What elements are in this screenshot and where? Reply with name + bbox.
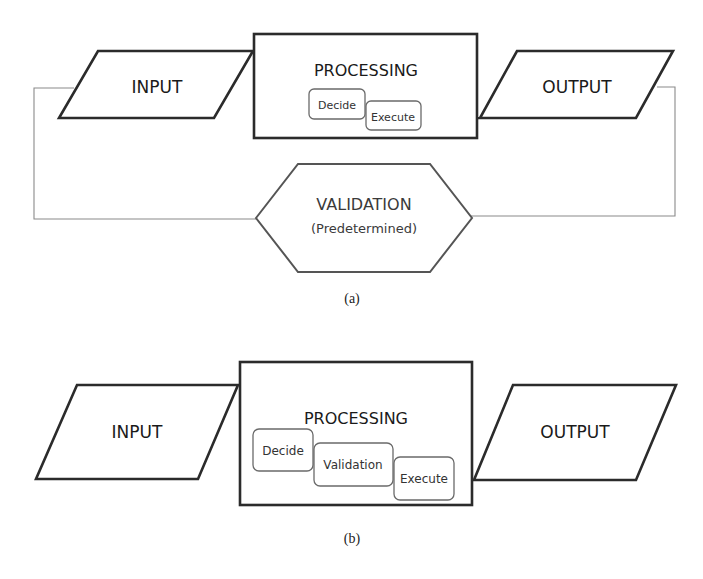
output-label-a: OUTPUT — [542, 77, 612, 97]
caption-a: (a) — [344, 291, 360, 307]
validation-label-b: Validation — [323, 458, 382, 472]
figure: INPUT PROCESSING Decide Execute OUTPUT V… — [0, 0, 703, 579]
validation-sublabel: (Predetermined) — [311, 221, 417, 236]
decide-label-b: Decide — [262, 444, 304, 458]
validation-label: VALIDATION — [316, 195, 411, 214]
diagram-b: INPUT PROCESSING Decide Validation Execu… — [36, 362, 676, 547]
input-label-a: INPUT — [132, 77, 183, 97]
decide-label-a: Decide — [318, 99, 356, 112]
execute-label-a: Execute — [371, 111, 415, 124]
validation-hexagon — [256, 164, 472, 272]
input-label-b: INPUT — [112, 422, 163, 442]
diagram-a: INPUT PROCESSING Decide Execute OUTPUT V… — [34, 34, 675, 307]
caption-b: (b) — [344, 531, 361, 547]
processing-label-a: PROCESSING — [314, 61, 418, 80]
execute-label-b: Execute — [400, 472, 448, 486]
output-label-b: OUTPUT — [540, 422, 610, 442]
processing-label-b: PROCESSING — [304, 409, 408, 428]
